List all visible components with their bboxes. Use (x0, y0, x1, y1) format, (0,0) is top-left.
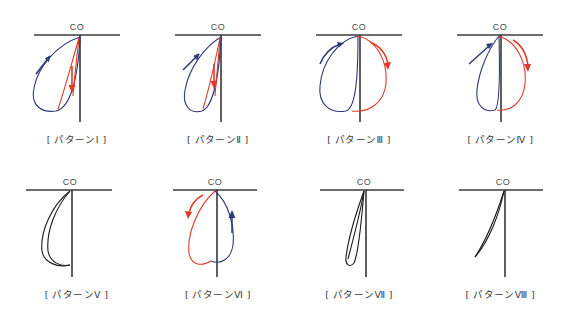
panel-label-pattern-3: [ パターンⅢ ] (327, 132, 391, 146)
panel-pattern-6: CO [ パターンⅥ ] (147, 173, 288, 323)
panel-label-pattern-4: [ パターンⅣ ] (467, 132, 533, 146)
co-label-2: CO (211, 22, 226, 32)
panel-label-pattern-1: [ パターンⅠ ] (47, 132, 107, 146)
blue-loop-curve-1 (33, 37, 80, 111)
panel-label-pattern-6: [ パターンⅥ ] (185, 287, 251, 301)
co-label-6: CO (208, 177, 223, 187)
black-sliver-inner-8 (475, 191, 504, 257)
panel-label-pattern-5: [ パターンⅤ ] (45, 287, 109, 301)
panel-pattern-2: CO [ パターンⅡ ] (147, 18, 288, 173)
blue-loop-curve-3 (320, 36, 358, 112)
black-figure-eight-upper-7 (346, 191, 364, 265)
black-figure-eight-cross-7 (348, 191, 364, 259)
black-sliver-outer-8 (475, 191, 504, 257)
panel-diagram-pattern-8: CO (435, 173, 565, 281)
panel-pattern-7: CO [ パターンⅦ ] (289, 173, 430, 323)
panel-diagram-pattern-7: CO (294, 173, 424, 281)
red-inner-curve-2 (215, 38, 220, 96)
co-label-7: CO (357, 177, 372, 187)
panel-pattern-4: CO [ パターンⅣ ] (430, 18, 571, 173)
co-label-3: CO (352, 22, 367, 32)
pressure-volume-loop-pattern-figure: CO [ パターンⅠ ] (0, 0, 577, 326)
panel-pattern-5: CO [ パターンⅤ ] (6, 173, 147, 323)
panel-label-pattern-2: [ パターンⅡ ] (187, 132, 249, 146)
panel-diagram-pattern-4: CO (435, 18, 565, 126)
red-arrow-3 (370, 42, 391, 70)
panel-pattern-1: CO [ パターンⅠ ] (6, 18, 147, 173)
red-loop-curve-6 (189, 191, 215, 264)
black-loop-outer-5 (41, 191, 69, 266)
co-label-1: CO (69, 22, 84, 32)
pattern-grid: CO [ パターンⅠ ] (0, 0, 577, 326)
red-arrow-4 (513, 40, 531, 72)
panel-diagram-pattern-1: CO (12, 18, 142, 126)
panel-diagram-pattern-5: CO (12, 173, 142, 281)
blue-loop-curve-2 (184, 37, 221, 112)
panel-diagram-pattern-6: CO (153, 173, 283, 281)
panel-label-pattern-7: [ パターンⅦ ] (325, 287, 393, 301)
blue-arrow-1 (36, 56, 50, 74)
blue-arrow-4 (469, 43, 493, 64)
red-arrow-6 (185, 195, 203, 219)
panel-label-pattern-8: [ パターンⅧ ] (466, 287, 536, 301)
panel-pattern-3: CO [ パターンⅢ ] (289, 18, 430, 173)
co-label-8: CO (496, 177, 511, 187)
co-label-4: CO (493, 22, 508, 32)
co-label-5: CO (62, 177, 77, 187)
blue-loop-curve-6 (211, 191, 233, 262)
panel-diagram-pattern-3: CO (294, 18, 424, 126)
panel-pattern-8: CO [ パターンⅧ ] (430, 173, 571, 323)
panel-diagram-pattern-2: CO (153, 18, 283, 126)
